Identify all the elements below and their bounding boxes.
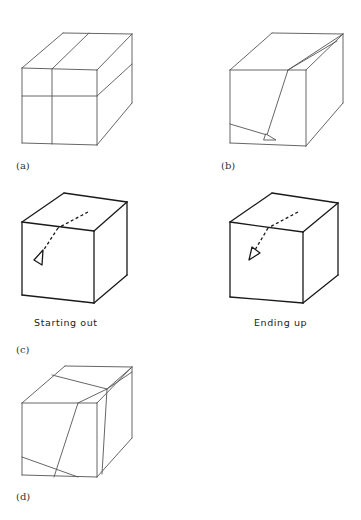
caption-starting-out: Starting out [34,318,98,328]
panel-label-b: (b) [221,161,235,171]
figure: (a) (b) Starting out Ending up (c) (d) [0,0,361,520]
cube-edge [267,70,288,135]
cube-edge [230,193,272,222]
cube-edge [230,297,303,303]
cube-edge [22,222,94,231]
panel-label-d: (d) [16,492,30,502]
dashed-path [58,212,88,228]
cube-panel-c2 [230,193,338,303]
cube-diagrams [0,0,361,520]
cube-edge [107,372,132,389]
cube-edge [97,34,132,70]
cube-panel-a [22,33,132,145]
cube-edge [97,103,132,145]
cube-edge [303,275,338,303]
cube-edge [230,143,306,146]
cube-edge [94,202,127,231]
cube-edge [230,124,267,135]
cube-edge [94,275,127,303]
cube-edge [22,457,78,477]
cube-edge [272,33,343,34]
cube-edge [65,366,132,367]
cube-edge [52,375,107,389]
cube-edge [272,193,338,203]
cube-edge [107,367,132,389]
cube-panel-b [230,33,343,146]
arrowhead-triangle-icon [249,247,260,260]
cube-edge [97,367,132,403]
caption-ending-up: Ending up [254,318,307,328]
cube-edge [52,33,89,69]
cube-edge [288,41,337,70]
cube-edge [22,295,94,303]
cube-panel-d [22,366,132,477]
cube-edge [78,389,107,403]
cube-edge [102,389,107,474]
cube-edge [22,475,97,477]
cube-edge [230,33,272,70]
cube-edge [22,143,97,145]
arrowhead-triangle-icon [264,134,276,140]
cube-panel-c [22,193,127,303]
panel-label-a: (a) [16,161,30,171]
cube-edge [64,193,127,202]
cube-edge [63,33,132,34]
cube-edge [22,68,97,70]
cube-edge [22,366,65,403]
cube-edge [22,33,63,68]
panel-label-c: (c) [16,345,29,355]
cube-edge [97,64,132,96]
dashed-path [268,212,298,228]
cube-edge [306,34,343,70]
cube-edge [54,403,78,477]
cube-edge [306,103,343,146]
arrowhead-triangle-icon [34,250,43,265]
cube-edge [303,203,338,232]
dashed-path [43,228,58,251]
cube-edge [22,193,64,222]
dashed-path [255,228,268,250]
